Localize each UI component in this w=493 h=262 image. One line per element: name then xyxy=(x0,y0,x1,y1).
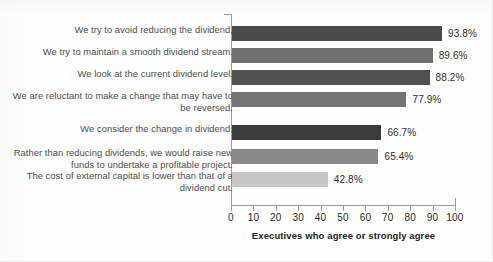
x-axis-tick-label: 40 xyxy=(309,212,333,223)
x-axis-tick xyxy=(276,205,277,211)
bar xyxy=(232,125,381,140)
x-axis-tick-label: 60 xyxy=(353,212,377,223)
bar xyxy=(232,26,442,41)
bar-category-label: We look at the current dividend level. xyxy=(5,68,233,80)
bar xyxy=(232,92,406,107)
y-axis-top-tick xyxy=(224,14,232,15)
bar-category-label: We are reluctant to make a change that m… xyxy=(5,90,233,113)
bar-chart-figure: We try to avoid reducing the dividend.93… xyxy=(0,0,493,262)
bar-value-label: 89.6% xyxy=(439,50,468,61)
x-axis-tick-label: 20 xyxy=(264,212,288,223)
x-axis-tick xyxy=(298,205,299,211)
x-axis-tick-label: 70 xyxy=(376,212,400,223)
x-axis-tick xyxy=(231,205,232,211)
bar-value-label: 77.9% xyxy=(412,94,441,105)
bar xyxy=(232,70,430,85)
bar-category-label: We consider the change in dividend. xyxy=(5,123,233,135)
x-axis-tick-label: 10 xyxy=(241,212,265,223)
bar-value-label: 93.8% xyxy=(448,28,477,39)
x-axis-tick xyxy=(455,205,456,211)
bar-value-label: 66.7% xyxy=(387,127,416,138)
bar-value-label: 42.8% xyxy=(334,174,363,185)
bar xyxy=(232,48,433,63)
bar-value-label: 65.4% xyxy=(384,151,413,162)
x-axis-tick-label: 100 xyxy=(443,212,467,223)
bar-category-label: Rather than reducing dividends, we would… xyxy=(5,147,233,170)
x-axis-tick-label: 0 xyxy=(219,212,243,223)
x-axis-tick-label: 50 xyxy=(331,212,355,223)
x-axis-tick xyxy=(343,205,344,211)
bar-category-label: We try to avoid reducing the dividend. xyxy=(5,24,233,36)
x-axis-tick xyxy=(410,205,411,211)
bar-category-label: The cost of external capital is lower th… xyxy=(5,170,233,193)
x-axis-tick xyxy=(321,205,322,211)
x-axis-tick xyxy=(433,205,434,211)
bar xyxy=(232,149,378,164)
x-axis-title: Executives who agree or strongly agree xyxy=(231,230,456,241)
bar xyxy=(232,172,328,187)
bar-category-label: We try to maintain a smooth dividend str… xyxy=(5,46,233,58)
x-axis-tick xyxy=(365,205,366,211)
x-axis-tick xyxy=(388,205,389,211)
x-axis-tick-label: 30 xyxy=(286,212,310,223)
x-axis-tick xyxy=(253,205,254,211)
x-axis-tick-label: 90 xyxy=(421,212,445,223)
x-axis-tick-label: 80 xyxy=(398,212,422,223)
bar-value-label: 88.2% xyxy=(436,72,465,83)
